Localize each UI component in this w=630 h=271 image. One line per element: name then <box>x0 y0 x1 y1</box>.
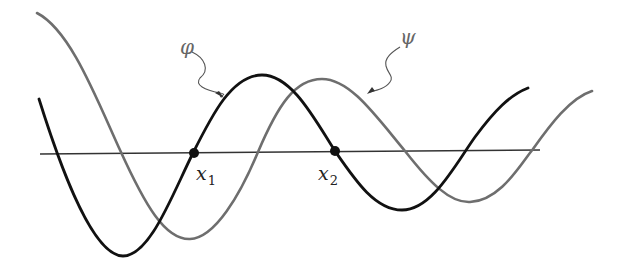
psi-curve <box>37 13 592 239</box>
label-phi: φ <box>180 35 194 59</box>
point-x2 <box>330 146 340 156</box>
phi-pointer-arrow <box>192 52 224 97</box>
label-psi: ψ <box>400 25 416 49</box>
psi-pointer-arrow <box>370 47 400 92</box>
label-x2: x2 <box>318 162 338 188</box>
label-x1: x1 <box>196 162 216 188</box>
point-x1 <box>189 148 199 158</box>
oscillation-diagram: x1 x2 φ ψ <box>0 0 630 271</box>
psi-arrowhead-icon <box>367 87 375 94</box>
